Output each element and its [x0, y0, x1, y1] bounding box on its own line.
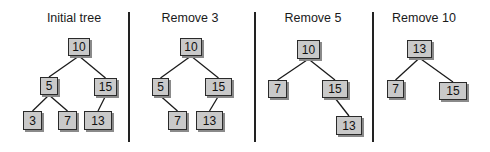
tree-node-10: 10 — [180, 38, 202, 56]
panel-title-remove-3: Remove 3 — [162, 11, 219, 25]
panel-title-remove-10: Remove 10 — [392, 11, 456, 25]
tree-node-3: 3 — [23, 111, 42, 130]
tree-node-13: 13 — [336, 116, 362, 135]
panel-title-initial-tree: Initial tree — [47, 11, 101, 25]
tree-node-13: 13 — [407, 40, 432, 58]
tree-edge — [98, 96, 106, 111]
tree-node-10: 10 — [68, 38, 90, 56]
tree-node-7: 7 — [387, 80, 404, 98]
tree-edge — [79, 56, 106, 78]
tree-node-15: 15 — [439, 82, 467, 100]
tree-node-7: 7 — [268, 80, 287, 98]
tree-node-7: 7 — [58, 111, 77, 130]
panel-divider — [372, 12, 374, 142]
tree-edge — [309, 59, 336, 80]
panel-divider — [254, 12, 256, 142]
tree-node-7: 7 — [168, 111, 187, 130]
tree-edge — [278, 59, 309, 80]
tree-edge — [191, 56, 219, 78]
tree-edge — [49, 95, 68, 111]
tree-edge — [210, 96, 219, 111]
tree-edge — [33, 95, 50, 111]
tree-edge — [420, 58, 454, 82]
tree-node-10: 10 — [297, 40, 320, 59]
tree-node-5: 5 — [40, 77, 58, 95]
tree-edge — [396, 58, 420, 80]
tree-edge — [161, 96, 178, 111]
tree-edge — [335, 98, 349, 116]
tree-node-5: 5 — [152, 78, 169, 96]
tree-node-15: 15 — [205, 78, 232, 96]
tree-node-13: 13 — [84, 111, 112, 130]
tree-edge — [161, 56, 192, 78]
panel-title-remove-5: Remove 5 — [285, 11, 342, 25]
panel-divider — [128, 12, 130, 142]
tree-node-15: 15 — [322, 80, 348, 98]
tree-node-15: 15 — [94, 78, 117, 96]
tree-edge — [49, 56, 79, 77]
tree-node-13: 13 — [196, 111, 223, 130]
